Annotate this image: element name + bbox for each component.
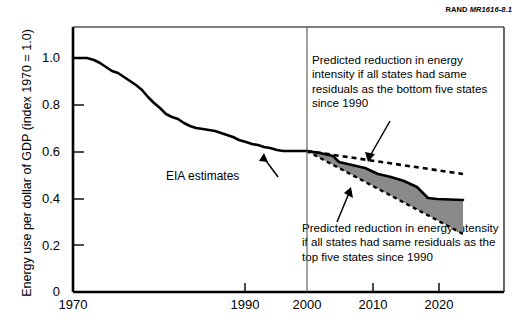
y-axis-ticks bbox=[73, 58, 84, 245]
chart-figure: RAND MR1616-8.1 Energy use per dollar of… bbox=[0, 0, 521, 322]
arrow-top-five-states bbox=[337, 187, 353, 222]
chart-canvas bbox=[0, 0, 521, 322]
series-eia-estimates bbox=[73, 58, 307, 151]
arrow-bottom-five-states bbox=[365, 121, 390, 162]
arrow-eia-estimates bbox=[259, 153, 278, 177]
x-axis-ticks bbox=[245, 283, 439, 292]
